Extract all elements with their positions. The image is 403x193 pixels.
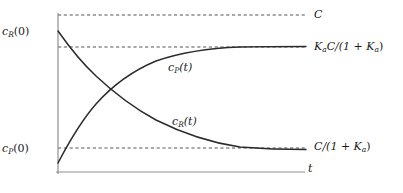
y-label-cr-initial: cR(0)	[2, 26, 29, 38]
plot-canvas	[0, 0, 403, 193]
asymptote-label-product: KaC/(1 + Ka)	[314, 41, 383, 53]
time-axis-label: t	[308, 163, 312, 174]
asymptote-label-total-concentration: C	[314, 9, 322, 20]
curve-label-product: cP(t)	[168, 62, 192, 74]
curve-label-reactant: cR(t)	[172, 116, 197, 128]
curve-reactant-cr	[58, 31, 306, 150]
y-label-cp-initial: cP(0)	[2, 143, 29, 155]
asymptote-label-reactant: C/(1 + Ka)	[314, 141, 371, 153]
concentration-vs-time-plot: cR(0) cP(0) C KaC/(1 + Ka) C/(1 + Ka) cP…	[0, 0, 403, 193]
